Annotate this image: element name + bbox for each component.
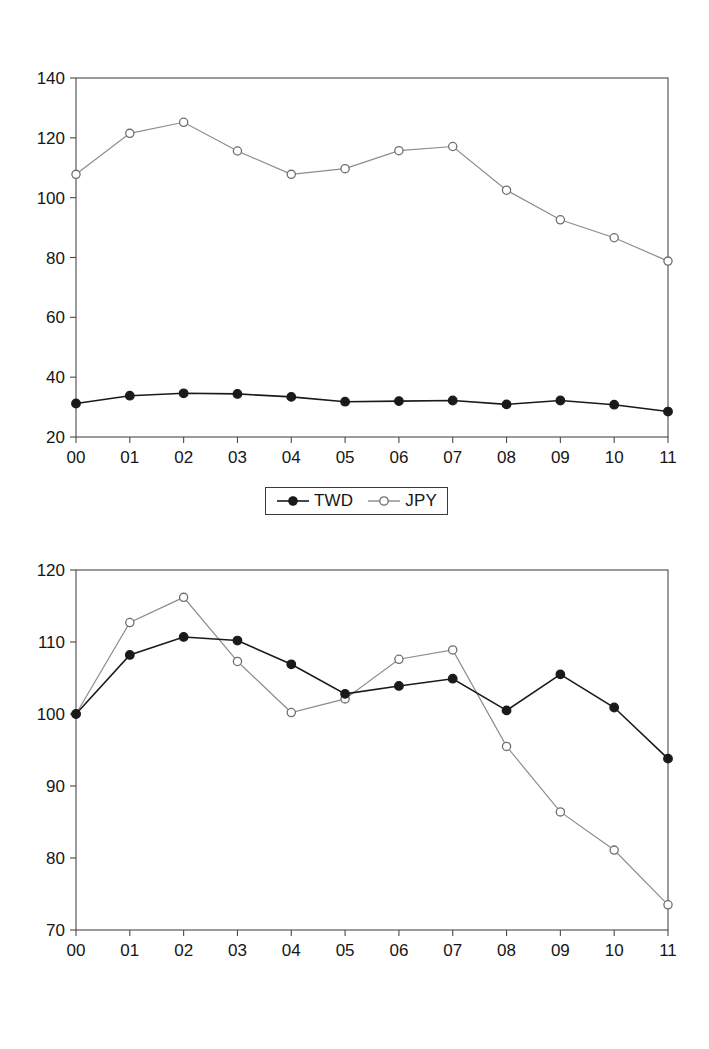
filled-circle-marker-icon xyxy=(276,494,310,508)
y-axis-tick-label: 120 xyxy=(37,561,65,580)
data-point-jpyindex xyxy=(180,593,188,601)
data-point-jpyindex xyxy=(449,646,457,654)
figure-twd-jpy-levels: 2040608010012014000010203040506070809101… xyxy=(0,0,709,540)
x-axis-tick-label: 06 xyxy=(389,448,408,467)
data-point-jpyindex xyxy=(664,901,672,909)
legend-entry-twd: TWD xyxy=(276,492,353,509)
data-point-jpy xyxy=(180,118,188,126)
x-axis-tick-label: 04 xyxy=(282,448,301,467)
legend-entry-jpy: JPY xyxy=(367,492,437,509)
x-axis-tick-label: 07 xyxy=(443,941,462,960)
x-axis-tick-label: 00 xyxy=(67,941,86,960)
data-point-jpy xyxy=(449,142,457,150)
data-point-twdindex xyxy=(72,710,81,719)
x-axis-tick-label: 03 xyxy=(228,941,247,960)
y-axis-tick-label: 70 xyxy=(46,921,65,940)
data-point-twdindex xyxy=(664,754,673,763)
y-axis-tick-label: 80 xyxy=(46,849,65,868)
x-axis-tick-label: 11 xyxy=(659,941,677,960)
line-chart-twd-jpy: 2040608010012014000010203040506070809101… xyxy=(0,0,709,470)
x-axis-tick-label: 03 xyxy=(228,448,247,467)
plot-area-2: 708090100110120000102030405060708091011 xyxy=(0,540,709,980)
x-axis-tick-label: 02 xyxy=(174,941,193,960)
x-axis-tick-label: 10 xyxy=(605,941,624,960)
data-point-jpy xyxy=(664,257,672,265)
data-point-twdindex xyxy=(395,682,404,691)
x-axis-tick-label: 04 xyxy=(282,941,301,960)
data-point-twd xyxy=(233,390,242,399)
y-axis-tick-label: 90 xyxy=(46,777,65,796)
data-point-twd xyxy=(502,400,511,409)
data-point-twd xyxy=(179,389,188,398)
data-point-twd xyxy=(395,397,404,406)
x-axis-tick-label: 11 xyxy=(659,448,677,467)
y-axis-tick-label: 40 xyxy=(46,368,65,387)
data-point-jpy xyxy=(287,170,295,178)
legend-label-twd: TWD xyxy=(314,492,353,509)
chart-legend-1: TWD JPY xyxy=(265,487,448,515)
series-line-twd xyxy=(76,393,668,411)
x-axis-tick-label: 00 xyxy=(67,448,86,467)
data-point-jpyindex xyxy=(287,708,295,716)
data-point-jpyindex xyxy=(395,655,403,663)
y-axis-tick-label: 140 xyxy=(37,69,65,88)
plot-frame xyxy=(76,570,668,930)
x-axis-tick-label: 05 xyxy=(336,448,355,467)
data-point-jpy xyxy=(502,186,510,194)
data-point-twd xyxy=(341,397,350,406)
data-point-twdindex xyxy=(179,633,188,642)
legend-label-jpy: JPY xyxy=(405,492,437,509)
data-point-jpyindex xyxy=(502,742,510,750)
data-point-jpy xyxy=(556,216,564,224)
open-circle-marker-icon xyxy=(367,494,401,508)
data-point-twd xyxy=(610,400,619,409)
x-axis-tick-label: 08 xyxy=(497,448,516,467)
data-point-jpy xyxy=(610,234,618,242)
data-point-jpy xyxy=(72,170,80,178)
data-point-jpyindex xyxy=(610,846,618,854)
data-point-twd xyxy=(448,396,457,405)
y-axis-tick-label: 110 xyxy=(38,633,65,652)
y-axis-tick-label: 80 xyxy=(46,249,65,268)
data-point-twdindex xyxy=(233,636,242,645)
x-axis-tick-label: 05 xyxy=(336,941,355,960)
x-axis-tick-label: 10 xyxy=(605,448,624,467)
x-axis-tick-label: 01 xyxy=(120,448,139,467)
line-chart-twdindex-jpyindex: 708090100110120000102030405060708091011 xyxy=(0,540,709,980)
data-point-twd xyxy=(664,407,673,416)
y-axis-tick-label: 100 xyxy=(37,189,65,208)
series-line-twdindex xyxy=(76,637,668,759)
data-point-twd xyxy=(556,396,565,405)
data-point-jpyindex xyxy=(233,657,241,665)
x-axis-tick-label: 02 xyxy=(174,448,193,467)
data-point-jpy xyxy=(395,147,403,155)
x-axis-tick-label: 08 xyxy=(497,941,516,960)
data-point-twdindex xyxy=(556,670,565,679)
data-point-jpy xyxy=(341,165,349,173)
plot-frame xyxy=(76,78,668,437)
y-axis-tick-label: 120 xyxy=(37,129,65,148)
data-point-twdindex xyxy=(502,706,511,715)
data-point-twdindex xyxy=(126,651,135,660)
x-axis-tick-label: 09 xyxy=(551,448,570,467)
y-axis-tick-label: 20 xyxy=(46,428,65,447)
x-axis-tick-label: 06 xyxy=(389,941,408,960)
plot-area-1: 2040608010012014000010203040506070809101… xyxy=(0,0,709,470)
data-point-twd xyxy=(126,391,135,400)
series-line-jpy xyxy=(76,122,668,261)
x-axis-tick-label: 09 xyxy=(551,941,570,960)
data-point-jpy xyxy=(233,147,241,155)
y-axis-tick-label: 60 xyxy=(46,308,65,327)
y-axis-tick-label: 100 xyxy=(37,705,65,724)
data-point-jpy xyxy=(126,129,134,137)
data-point-twd xyxy=(287,393,296,402)
data-point-jpyindex xyxy=(126,618,134,626)
x-axis-tick-label: 01 xyxy=(120,941,139,960)
data-point-jpyindex xyxy=(556,808,564,816)
x-axis-tick-label: 07 xyxy=(443,448,462,467)
data-point-twdindex xyxy=(448,674,457,683)
data-point-twd xyxy=(72,399,81,408)
data-point-twdindex xyxy=(610,703,619,712)
figure-twdindex-jpyindex: 708090100110120000102030405060708091011 … xyxy=(0,540,709,1049)
data-point-twdindex xyxy=(287,660,296,669)
